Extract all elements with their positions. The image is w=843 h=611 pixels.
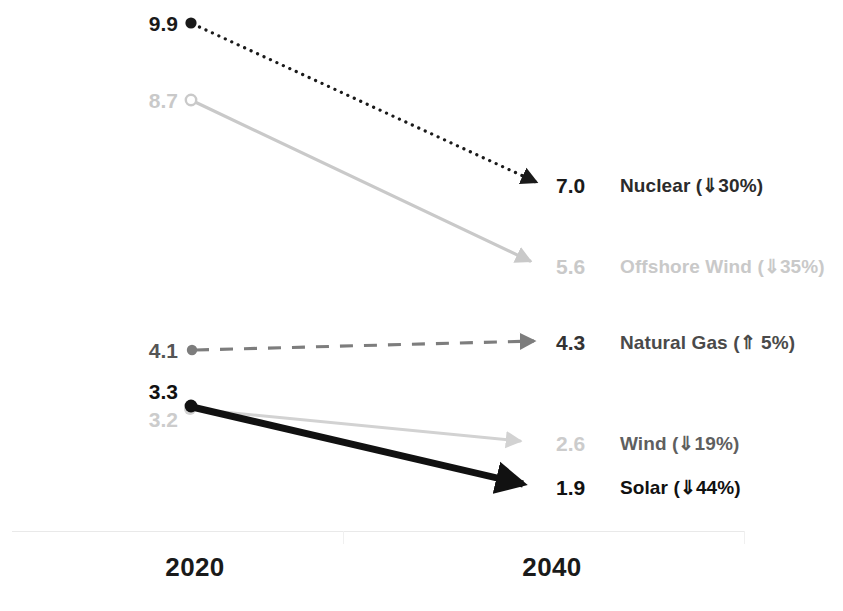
series-line-natural-gas bbox=[187, 341, 534, 355]
end-value-natural-gas: 4.3 bbox=[556, 332, 585, 353]
end-value-offshore-wind: 5.6 bbox=[556, 256, 585, 277]
end-value-wind: 2.6 bbox=[556, 433, 585, 454]
series-label-natural-gas: Natural Gas (⇑ 5%) bbox=[620, 333, 795, 352]
series-line-offshore-wind bbox=[186, 95, 530, 261]
end-value-nuclear: 7.0 bbox=[556, 175, 585, 196]
start-value-nuclear: 9.9 bbox=[70, 13, 178, 34]
series-label-nuclear: Nuclear (⇓30%) bbox=[620, 176, 763, 195]
series-line-nuclear bbox=[185, 17, 536, 182]
series-start-dot-natural-gas bbox=[187, 345, 197, 355]
axis-tick-mid bbox=[343, 531, 344, 544]
start-value-wind: 3.2 bbox=[70, 409, 178, 430]
series-line-wind bbox=[184, 403, 520, 441]
start-value-natural-gas: 4.1 bbox=[70, 340, 178, 361]
series-start-dot-offshore-wind bbox=[186, 95, 196, 105]
start-value-offshore-wind: 8.7 bbox=[70, 90, 178, 111]
axis-label-2020: 2020 bbox=[165, 552, 224, 583]
series-label-solar: Solar (⇓44%) bbox=[620, 478, 741, 497]
series-label-offshore-wind: Offshore Wind (⇓35%) bbox=[620, 257, 825, 276]
end-value-solar: 1.9 bbox=[556, 477, 585, 498]
series-start-dot-nuclear bbox=[185, 17, 196, 28]
axis-tick-right bbox=[744, 531, 745, 544]
axis-label-2040: 2040 bbox=[522, 552, 581, 583]
start-value-solar: 3.3 bbox=[70, 381, 178, 402]
series-start-dot-solar bbox=[185, 400, 198, 413]
axis-baseline bbox=[12, 531, 745, 532]
series-label-wind: Wind (⇓19%) bbox=[620, 434, 739, 453]
slope-chart: 9.9 8.7 4.1 3.3 3.2 7.0 5.6 4.3 2.6 1.9 … bbox=[0, 0, 843, 611]
